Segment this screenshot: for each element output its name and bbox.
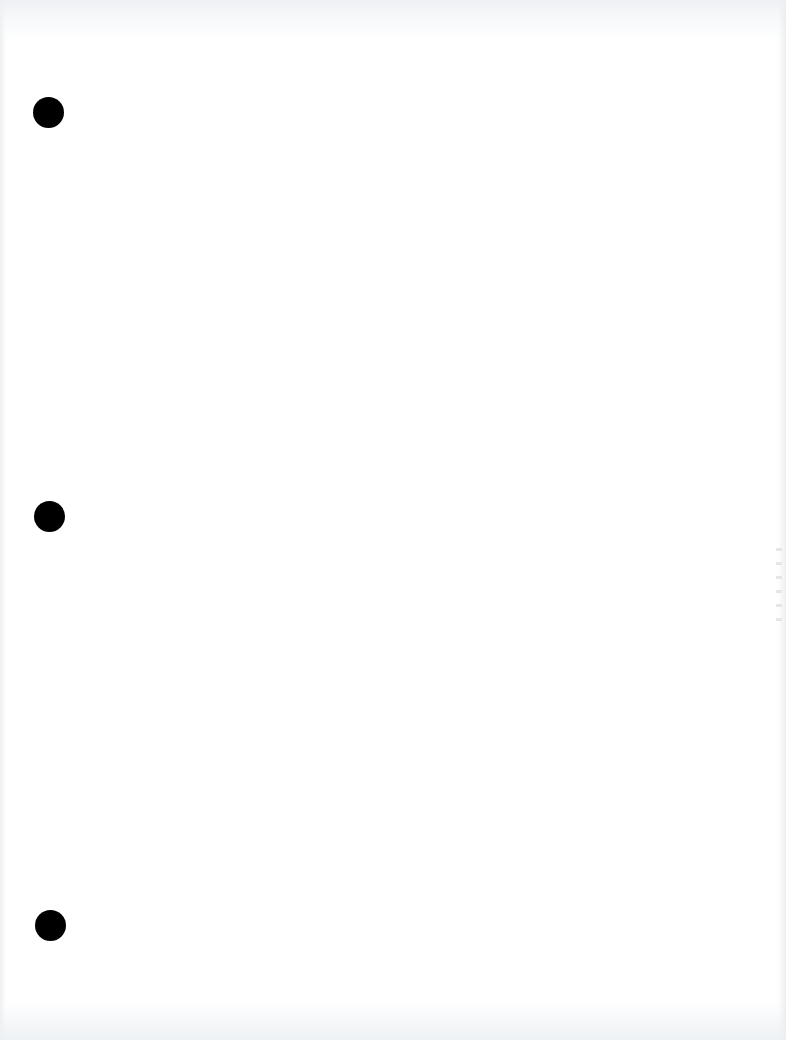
scan-edge-bottom xyxy=(0,1000,786,1040)
punch-hole-bottom xyxy=(35,910,66,941)
scan-edge-right xyxy=(778,0,786,1040)
scan-edge-top xyxy=(0,0,786,42)
punch-hole-middle xyxy=(34,501,65,532)
punch-hole-top xyxy=(33,97,64,128)
scan-artifact-right xyxy=(776,548,782,628)
scanned-page xyxy=(0,0,786,1040)
scan-edge-left xyxy=(0,0,6,1040)
